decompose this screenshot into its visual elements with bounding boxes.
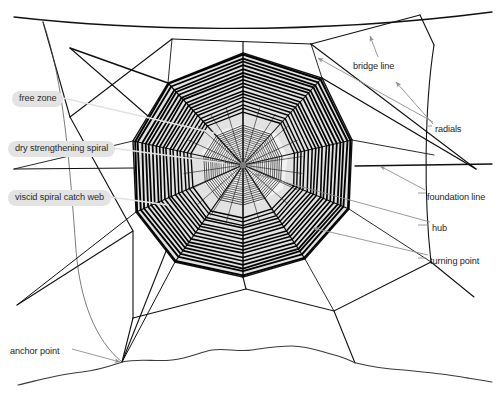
horizontal-foundation-left bbox=[14, 168, 134, 169]
label-viscid-spiral-catch-web: viscid spiral catch web bbox=[8, 190, 111, 206]
label-dry-strengthening-spiral: dry strengthening spiral bbox=[8, 141, 115, 157]
anchor-dropline-right bbox=[334, 311, 355, 363]
label-turning-point: turning point bbox=[430, 256, 479, 267]
leader-foundation-line bbox=[380, 166, 425, 190]
anchor-dropline-left bbox=[122, 318, 133, 362]
ground-line bbox=[18, 346, 492, 385]
foundation-bottom-right bbox=[246, 262, 431, 311]
outer-radial-left-lower bbox=[17, 231, 133, 305]
leader-turning-point bbox=[313, 228, 428, 255]
leader-bridge-line bbox=[370, 36, 378, 57]
label-bridge-line: bridge line bbox=[353, 61, 394, 72]
radial-ext-nnw bbox=[168, 39, 172, 83]
ground-group bbox=[18, 346, 492, 385]
label-foundation-line: foundation line bbox=[427, 192, 485, 203]
label-anchor-point: anchor point bbox=[10, 346, 59, 357]
hub-center-dot bbox=[240, 162, 246, 168]
foundation-upper-right bbox=[311, 15, 420, 44]
foundation-top bbox=[172, 39, 311, 44]
label-hub: hub bbox=[432, 223, 447, 234]
outer-radial-right-lower bbox=[431, 262, 474, 297]
radial-ext-ssw bbox=[122, 262, 175, 362]
radial-ext-sw bbox=[243, 277, 246, 289]
bridge-line-path bbox=[14, 12, 492, 28]
label-free-zone: free zone bbox=[12, 91, 63, 107]
radial-ext-w bbox=[17, 212, 136, 305]
label-radials: radials bbox=[435, 124, 461, 135]
radial-ext-se bbox=[349, 209, 431, 262]
foundation-bottom-left bbox=[133, 289, 246, 318]
leader-anchor-point bbox=[72, 349, 120, 362]
radial-ext-e bbox=[352, 140, 434, 155]
radial-ext-nne bbox=[311, 44, 322, 78]
radial-ext-s bbox=[305, 259, 334, 311]
diagram-canvas: free zone dry strengthening spiral visci… bbox=[0, 0, 503, 395]
